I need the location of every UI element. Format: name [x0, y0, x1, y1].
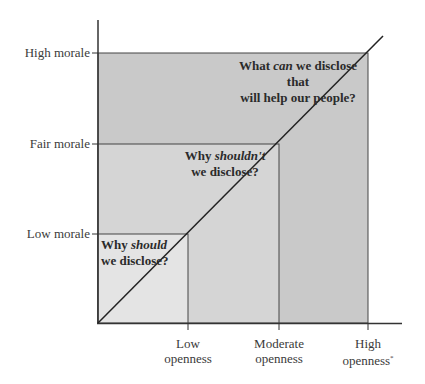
y-label-fair-morale: Fair morale [0, 136, 90, 151]
x-label-line1: Low [143, 336, 233, 351]
x-label-line2: openness [143, 351, 233, 366]
question-high-morale: What can we disclose that will help our … [232, 58, 364, 106]
question-line2: we disclose? [170, 164, 280, 180]
y-label-low-morale: Low morale [0, 226, 90, 241]
x-label-high-openness: High openness* [323, 336, 413, 368]
x-label-line2: openness [234, 351, 324, 366]
question-line2: will help our people? [232, 90, 364, 106]
footnote-mark: * [390, 354, 394, 362]
y-label-high-morale: High morale [0, 45, 90, 60]
question-line1: Why should [101, 237, 191, 253]
question-fair-morale: Why shouldn't we disclose? [170, 148, 280, 180]
question-line1: Why shouldn't [170, 148, 280, 164]
question-low-morale: Why should we disclose? [101, 237, 191, 269]
question-line2: we disclose? [101, 253, 191, 269]
x-label-line2: openness* [323, 351, 413, 368]
x-label-line1: High [323, 336, 413, 351]
x-label-text: openness [342, 353, 390, 368]
question-line1: What can we disclose that [232, 58, 364, 90]
x-label-line1: Moderate [234, 336, 324, 351]
x-label-moderate-openness: Moderate openness [234, 336, 324, 366]
x-label-low-openness: Low openness [143, 336, 233, 366]
